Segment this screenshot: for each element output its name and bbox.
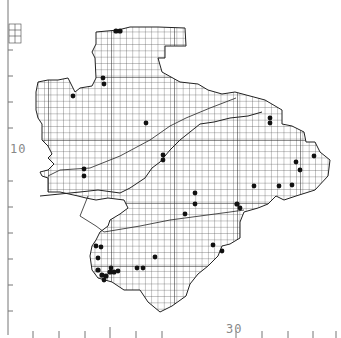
land-grid (0, 0, 341, 338)
inset-grid (9, 24, 21, 43)
axis-label-left: 10 (10, 142, 26, 156)
distribution-map (0, 0, 341, 338)
axis-label-bottom: 30 (226, 322, 242, 336)
